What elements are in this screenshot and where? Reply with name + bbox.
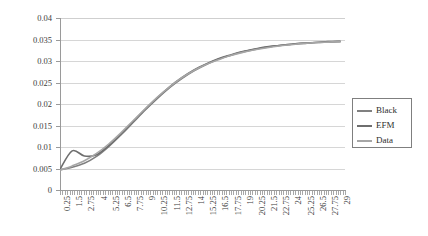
x-axis-tick bbox=[295, 191, 296, 195]
x-axis-tick bbox=[169, 191, 170, 195]
x-axis-tick bbox=[255, 191, 256, 195]
x-axis-tick bbox=[233, 191, 234, 195]
legend-swatch-icon bbox=[357, 110, 372, 112]
x-axis-tick bbox=[186, 191, 187, 195]
y-axis-tick-label: 0.035 bbox=[33, 35, 52, 44]
x-axis-tick-label: 20.25 bbox=[258, 196, 267, 215]
x-axis-tick bbox=[276, 191, 277, 195]
x-axis-tick bbox=[77, 191, 78, 195]
x-axis-tick bbox=[328, 191, 329, 195]
x-axis-tick bbox=[207, 191, 208, 195]
legend-item-black[interactable]: Black bbox=[353, 103, 411, 118]
x-axis-tick bbox=[317, 191, 318, 195]
x-axis-tick bbox=[167, 191, 168, 195]
x-axis-tick-label: 1.5 bbox=[75, 196, 84, 207]
x-axis-tick bbox=[134, 191, 135, 195]
x-axis-tick bbox=[200, 191, 201, 195]
x-axis-tick bbox=[72, 191, 73, 195]
x-axis-tick bbox=[110, 191, 111, 195]
x-axis-tick bbox=[124, 191, 125, 195]
x-axis-tick bbox=[122, 191, 123, 195]
x-axis-tick bbox=[181, 191, 182, 195]
x-axis-tick bbox=[141, 191, 142, 195]
x-axis-tick bbox=[195, 191, 196, 195]
x-axis-tick bbox=[65, 191, 66, 195]
x-axis-tick bbox=[210, 191, 211, 195]
x-axis-tick bbox=[338, 191, 339, 195]
x-axis-tick bbox=[62, 191, 63, 195]
x-axis-tick-label: 25.25 bbox=[307, 196, 316, 215]
x-axis-tick-label: 14 bbox=[197, 196, 206, 205]
legend-item-data[interactable]: Data bbox=[353, 133, 411, 148]
x-axis-tick-label: 17.75 bbox=[234, 196, 243, 215]
x-axis-tick bbox=[288, 191, 289, 195]
x-axis-tick bbox=[271, 191, 272, 195]
x-axis-tick bbox=[193, 191, 194, 195]
x-axis-tick bbox=[129, 191, 130, 195]
x-axis-tick bbox=[105, 191, 106, 195]
x-axis-tick bbox=[217, 191, 218, 195]
legend-item-efm[interactable]: EFM bbox=[353, 118, 411, 133]
x-axis-tick bbox=[345, 191, 346, 195]
x-axis-tick bbox=[343, 191, 344, 195]
x-axis-tick bbox=[103, 191, 104, 195]
x-axis-tick bbox=[179, 191, 180, 195]
chart-container: 0.040.0350.030.0250.020.0150.010.0050 0.… bbox=[0, 0, 428, 236]
x-axis-tick bbox=[309, 191, 310, 195]
y-axis-tick-label: 0.005 bbox=[33, 164, 52, 173]
x-axis-tick bbox=[243, 191, 244, 195]
x-axis-tick bbox=[188, 191, 189, 195]
legend-label: EFM bbox=[376, 121, 395, 130]
x-axis-tick bbox=[93, 191, 94, 195]
x-axis-tick bbox=[60, 191, 61, 195]
x-axis-tick-label: 29 bbox=[343, 196, 352, 205]
x-axis-tick bbox=[108, 191, 109, 195]
x-axis-tick bbox=[260, 191, 261, 195]
x-axis-tick bbox=[203, 191, 204, 195]
x-axis-tick bbox=[262, 191, 263, 195]
x-axis-tick bbox=[155, 191, 156, 195]
x-axis-tick bbox=[300, 191, 301, 195]
x-axis-tick bbox=[79, 191, 80, 195]
x-axis-tick bbox=[238, 191, 239, 195]
x-axis-tick bbox=[162, 191, 163, 195]
x-axis-tick-label: 21.5 bbox=[270, 196, 279, 211]
x-axis-tick bbox=[74, 191, 75, 195]
x-axis-tick bbox=[176, 191, 177, 195]
x-axis-tick bbox=[250, 191, 251, 195]
y-axis-tick-label: 0.02 bbox=[37, 100, 52, 109]
x-axis-tick bbox=[319, 191, 320, 195]
x-axis-tick bbox=[321, 191, 322, 195]
x-axis-tick-label: 11.5 bbox=[173, 196, 182, 211]
x-axis-tick bbox=[245, 191, 246, 195]
x-axis-tick bbox=[286, 191, 287, 195]
legend-swatch-icon bbox=[357, 125, 372, 127]
x-axis-tick-label: 0.25 bbox=[63, 196, 72, 211]
x-axis-tick bbox=[165, 191, 166, 195]
x-axis-tick bbox=[224, 191, 225, 195]
x-axis-tick bbox=[148, 191, 149, 195]
x-axis-tick bbox=[89, 191, 90, 195]
x-axis-tick-label: 12.75 bbox=[185, 196, 194, 215]
x-axis-tick bbox=[326, 191, 327, 195]
x-axis-tick bbox=[257, 191, 258, 195]
x-axis-tick-label: 15.25 bbox=[209, 196, 218, 215]
x-axis-tick bbox=[70, 191, 71, 195]
x-axis-tick bbox=[236, 191, 237, 195]
x-axis-tick bbox=[143, 191, 144, 195]
x-axis-tick bbox=[252, 191, 253, 195]
x-axis-tick bbox=[248, 191, 249, 195]
legend-swatch-icon bbox=[357, 140, 372, 142]
x-axis-tick bbox=[307, 191, 308, 195]
x-axis-tick bbox=[298, 191, 299, 195]
series-lines bbox=[60, 18, 345, 190]
x-axis-tick-label: 4 bbox=[100, 196, 109, 200]
x-axis-tick bbox=[138, 191, 139, 195]
x-axis-tick bbox=[198, 191, 199, 195]
x-axis-tick-label: 26.5 bbox=[319, 196, 328, 211]
x-axis-tick bbox=[91, 191, 92, 195]
x-axis-tick-label: 10.25 bbox=[160, 196, 169, 215]
x-axis-tick-label: 9 bbox=[148, 196, 157, 200]
x-axis-tick bbox=[283, 191, 284, 195]
x-axis-tick bbox=[184, 191, 185, 195]
